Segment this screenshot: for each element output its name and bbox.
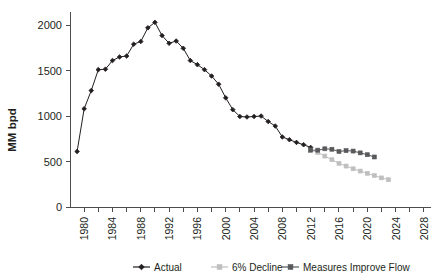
data-point-marker (323, 147, 327, 151)
chart-container: 0500100015002000198019841988199219962000… (0, 0, 435, 280)
data-point-marker (138, 39, 143, 44)
data-point-marker (365, 171, 369, 175)
legend-item-measures-improve-flow[interactable]: Measures Improve Flow (282, 262, 410, 273)
legend-label: 6% Decline (232, 262, 283, 273)
y-tick-label: 2000 (38, 19, 62, 31)
data-point-marker (287, 137, 292, 142)
data-point-marker (124, 54, 129, 59)
line-chart: 0500100015002000198019841988199219962000… (0, 0, 435, 280)
plot-area (75, 20, 391, 182)
y-axis-title: MM bpd (6, 108, 18, 151)
data-point-marker (323, 154, 327, 158)
data-point-marker (89, 88, 94, 93)
x-tick-label: 1996 (191, 217, 203, 241)
x-tick-label: 1988 (135, 217, 147, 241)
legend-label: Measures Improve Flow (303, 262, 410, 273)
x-tick-label: 2004 (248, 217, 260, 241)
data-point-marker (358, 169, 362, 173)
data-point-marker (372, 155, 376, 159)
x-tick-label: 2000 (220, 217, 232, 241)
data-point-marker (96, 67, 101, 72)
data-point-marker (387, 178, 391, 182)
legend-item-actual[interactable]: Actual (133, 262, 182, 273)
y-tick-label: 0 (56, 201, 62, 213)
x-tick-label: 1992 (163, 217, 175, 241)
series-line (311, 149, 375, 157)
data-point-marker (358, 151, 362, 155)
legend-item-6-decline[interactable]: 6% Decline (211, 262, 283, 273)
legend-marker (217, 265, 222, 270)
data-point-marker (337, 150, 341, 154)
data-point-marker (117, 55, 122, 60)
data-point-marker (330, 147, 334, 151)
data-point-marker (365, 153, 369, 157)
data-point-marker (309, 148, 313, 152)
data-point-marker (330, 158, 334, 162)
data-point-marker (294, 140, 299, 145)
series-actual (75, 20, 313, 154)
data-point-marker (245, 115, 250, 120)
data-point-marker (188, 58, 193, 63)
data-point-marker (379, 176, 383, 180)
x-tick-label: 2020 (361, 217, 373, 241)
data-point-marker (351, 149, 355, 153)
data-point-marker (372, 174, 376, 178)
data-point-marker (131, 42, 136, 47)
y-tick-label: 500 (44, 156, 62, 168)
series-line (311, 150, 389, 180)
x-tick-label: 2012 (305, 217, 317, 241)
series-6-decline (309, 148, 391, 182)
x-tick-label: 2024 (390, 217, 402, 241)
series-line (77, 22, 311, 151)
legend-label: Actual (154, 262, 182, 273)
data-point-marker (223, 96, 228, 101)
legend-marker (139, 264, 145, 270)
data-point-marker (337, 161, 341, 165)
y-tick-label: 1500 (38, 65, 62, 77)
x-tick-label: 2028 (418, 217, 430, 241)
data-point-marker (351, 167, 355, 171)
data-point-marker (344, 149, 348, 153)
x-tick-label: 2016 (333, 217, 345, 241)
x-tick-label: 1980 (78, 217, 90, 241)
data-point-marker (75, 149, 80, 154)
x-tick-label: 1984 (106, 217, 118, 241)
data-point-marker (344, 164, 348, 168)
axes: 0500100015002000198019841988199219962000… (38, 12, 431, 240)
data-point-marker (316, 148, 320, 152)
data-point-marker (82, 106, 87, 111)
data-point-marker (252, 114, 257, 119)
data-point-marker (301, 142, 306, 147)
y-tick-label: 1000 (38, 110, 62, 122)
legend-marker (288, 265, 293, 270)
chart-legend: Actual6% DeclineMeasures Improve Flow (133, 262, 410, 273)
x-tick-label: 2008 (276, 217, 288, 241)
